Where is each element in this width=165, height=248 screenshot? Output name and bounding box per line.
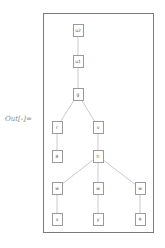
graph-node-w: w: [93, 182, 104, 195]
graph-node-y: y: [93, 213, 104, 226]
graph-edges: [0, 0, 165, 248]
graph-node-h: h: [93, 150, 104, 163]
graph-node-8: 8: [52, 150, 63, 163]
graph-node-r: r: [52, 121, 63, 134]
graph-node-9: 9: [135, 213, 146, 226]
graph-node-w: w: [52, 182, 63, 195]
graph-node-u2: u2: [73, 24, 84, 37]
graph-node-v: v: [93, 121, 104, 134]
graph-node-u1: u1: [73, 55, 84, 68]
graph-node-g: g: [73, 88, 84, 101]
graph-node-x: x: [52, 213, 63, 226]
graph-node-w: w: [135, 182, 146, 195]
